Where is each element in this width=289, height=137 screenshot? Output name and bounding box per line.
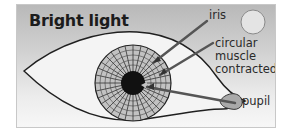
sun-icon bbox=[241, 10, 265, 34]
diagram-title: Bright light bbox=[29, 11, 129, 30]
label-line-3: contracted bbox=[215, 63, 276, 76]
diagram-frame: Bright light iris circular muscle contra… bbox=[16, 4, 276, 128]
label-iris: iris bbox=[209, 9, 226, 22]
label-pupil: pupil bbox=[242, 95, 270, 108]
label-circular-muscle: circular muscle contracted bbox=[215, 37, 276, 76]
